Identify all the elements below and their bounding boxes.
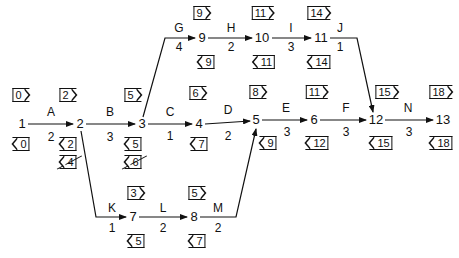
duration-M: 2 xyxy=(215,222,222,234)
duration-L: 2 xyxy=(160,222,167,234)
node-4: 4 xyxy=(194,118,203,130)
activity-label-I: I xyxy=(289,22,292,34)
latest-time-node-4: 7 xyxy=(190,137,207,151)
activity-label-H: H xyxy=(227,22,236,34)
node-9: 9 xyxy=(197,32,206,44)
node-13: 13 xyxy=(435,114,451,126)
duration-E: 3 xyxy=(284,126,291,138)
latest-time-node-8: 7 xyxy=(188,234,205,248)
activity-label-A: A xyxy=(47,106,55,118)
duration-I: 3 xyxy=(288,41,295,53)
activity-label-E: E xyxy=(282,102,290,114)
earliest-time-node-13: 18 xyxy=(429,85,452,99)
node-6: 6 xyxy=(309,114,318,126)
duration-C: 1 xyxy=(167,130,174,142)
earliest-time-node-11: 14 xyxy=(307,6,330,20)
activity-label-M: M xyxy=(213,202,223,214)
node-11: 11 xyxy=(313,32,329,44)
duration-B: 3 xyxy=(107,131,114,143)
activity-label-D: D xyxy=(224,104,233,116)
latest-time-node-2-crossed-out: 4 xyxy=(59,155,76,169)
latest-time-node-12: 15 xyxy=(369,136,392,150)
duration-D: 2 xyxy=(225,130,232,142)
duration-F: 3 xyxy=(343,126,350,138)
latest-time-node-3: 5 xyxy=(124,137,141,151)
duration-H: 2 xyxy=(228,41,235,53)
duration-J: 1 xyxy=(337,41,344,53)
earliest-time-node-6: 11 xyxy=(306,85,328,99)
earliest-time-node-8: 5 xyxy=(188,186,205,200)
activity-label-G: G xyxy=(174,22,183,34)
earliest-time-node-2: 2 xyxy=(59,88,76,102)
duration-K: 1 xyxy=(109,222,116,234)
latest-time-node-6: 12 xyxy=(305,136,328,150)
latest-time-node-10: 11 xyxy=(253,55,275,69)
earliest-time-node-7: 3 xyxy=(127,186,144,200)
activity-label-L: L xyxy=(160,202,167,214)
latest-time-node-3-crossed-out: 6 xyxy=(124,155,141,169)
arrow-D xyxy=(205,121,250,124)
project-network-diagram: 1 2 3 4 5 6 7 8 9 10 11 12 13 A B C D E … xyxy=(0,0,459,258)
node-5: 5 xyxy=(251,114,260,126)
activity-label-C: C xyxy=(166,106,175,118)
activity-label-N: N xyxy=(404,102,413,114)
activity-label-J: J xyxy=(337,22,343,34)
activity-label-K: K xyxy=(108,202,116,214)
node-2: 2 xyxy=(75,118,84,130)
node-1: 1 xyxy=(17,118,26,130)
activity-label-B: B xyxy=(106,106,114,118)
latest-time-node-7: 5 xyxy=(127,234,144,248)
earliest-time-node-1: 0 xyxy=(12,88,29,102)
node-7: 7 xyxy=(128,211,137,223)
duration-N: 3 xyxy=(406,126,413,138)
latest-time-node-1: 0 xyxy=(12,137,29,151)
arrow-K xyxy=(81,131,126,217)
duration-A: 2 xyxy=(48,131,55,143)
node-3: 3 xyxy=(137,118,146,130)
latest-time-node-5: 9 xyxy=(259,136,276,150)
node-12: 12 xyxy=(368,114,384,126)
latest-time-node-2: 2 xyxy=(59,137,76,151)
latest-time-node-13: 18 xyxy=(429,136,452,150)
earliest-time-node-9: 9 xyxy=(193,6,210,20)
earliest-time-node-10: 11 xyxy=(252,6,274,20)
latest-time-node-11: 14 xyxy=(307,55,330,69)
earliest-time-node-5: 8 xyxy=(249,85,266,99)
latest-time-node-9: 9 xyxy=(197,55,214,69)
earliest-time-node-12: 15 xyxy=(375,85,398,99)
activity-label-F: F xyxy=(342,102,349,114)
duration-G: 4 xyxy=(176,41,183,53)
node-10: 10 xyxy=(254,32,270,44)
earliest-time-node-4: 6 xyxy=(189,86,206,100)
earliest-time-node-3: 5 xyxy=(124,88,141,102)
node-8: 8 xyxy=(189,211,198,223)
